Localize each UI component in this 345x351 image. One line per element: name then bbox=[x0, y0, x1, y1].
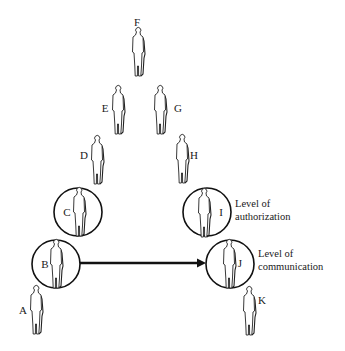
person-a: A bbox=[19, 285, 43, 334]
annotation-line2: authorization bbox=[235, 211, 291, 222]
person-b: B bbox=[32, 239, 80, 288]
annotation-communication: Level of communication bbox=[258, 248, 324, 272]
person-k: K bbox=[244, 286, 267, 335]
communication-arrow bbox=[80, 259, 206, 268]
person-icon bbox=[31, 285, 44, 334]
person-icon bbox=[92, 135, 105, 184]
person-h: H bbox=[177, 134, 199, 183]
person-g: G bbox=[155, 85, 183, 134]
authorization-communication-diagram: F E G D H C I Level of authorization bbox=[0, 0, 345, 351]
person-icon bbox=[51, 239, 64, 288]
person-icon bbox=[133, 27, 146, 76]
label-i: I bbox=[219, 206, 223, 218]
label-k: K bbox=[258, 294, 266, 306]
person-icon bbox=[155, 85, 168, 134]
annotation-authorization: Level of authorization bbox=[235, 198, 291, 222]
label-f: F bbox=[134, 16, 140, 28]
person-icon bbox=[244, 286, 257, 335]
annotation-line1: Level of bbox=[235, 198, 271, 209]
person-c: C bbox=[54, 187, 102, 236]
label-g: G bbox=[174, 102, 182, 114]
person-f: F bbox=[133, 16, 146, 76]
person-icon bbox=[199, 188, 212, 237]
person-icon bbox=[177, 134, 190, 183]
label-b: B bbox=[41, 258, 48, 270]
annotation-line2: communication bbox=[258, 261, 324, 272]
label-a: A bbox=[19, 304, 27, 316]
person-icon bbox=[74, 187, 87, 236]
person-d: D bbox=[80, 135, 104, 184]
arrowhead-icon bbox=[197, 259, 206, 268]
annotation-line1: Level of bbox=[258, 248, 294, 259]
label-h: H bbox=[190, 149, 198, 161]
label-d: D bbox=[80, 149, 88, 161]
person-e: E bbox=[102, 85, 125, 134]
label-e: E bbox=[102, 102, 109, 114]
person-j: J bbox=[206, 239, 254, 288]
label-c: C bbox=[63, 206, 70, 218]
person-icon bbox=[113, 85, 126, 134]
person-icon bbox=[224, 239, 237, 288]
person-i: I bbox=[183, 188, 231, 237]
label-j: J bbox=[238, 257, 243, 269]
